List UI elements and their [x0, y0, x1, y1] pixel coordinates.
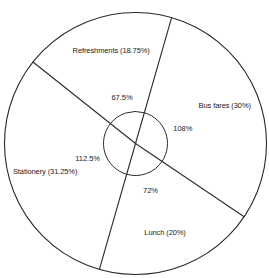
angle-label-bus-fares: 108% — [173, 124, 193, 133]
angle-label-refreshments: 67.5% — [111, 93, 133, 102]
slice-label-bus-fares: Bus fares (30%) — [199, 101, 252, 110]
slice-label-refreshments: Refreshments (18.75%) — [73, 46, 151, 55]
slice-label-stationery: Stationery (31.25%) — [13, 167, 78, 176]
pie-chart: Bus fares (30%)108%Lunch (20%)72%Station… — [0, 0, 269, 278]
angle-label-stationery: 112.5% — [75, 154, 100, 163]
angle-label-lunch: 72% — [143, 186, 158, 195]
slice-label-lunch: Lunch (20%) — [144, 228, 186, 237]
